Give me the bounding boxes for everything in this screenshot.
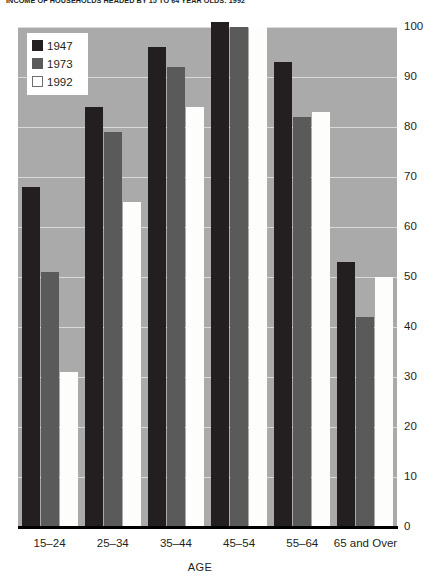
legend-item-1947[interactable]: 1947	[32, 37, 83, 54]
legend-item-1973[interactable]: 1973	[32, 55, 83, 72]
plot-area	[18, 27, 397, 527]
legend-swatch-1992-icon	[32, 76, 43, 87]
x-axis-tick-45–54: 45–54	[208, 537, 271, 550]
bar-1947-15–24[interactable]	[22, 187, 40, 527]
bar-1973-35–44[interactable]	[167, 67, 185, 527]
x-axis-tick-55–64: 55–64	[271, 537, 334, 550]
bars-layer	[18, 27, 397, 527]
bar-1992-45–54[interactable]	[249, 27, 267, 527]
x-axis-tick-65-and-Over: 65 and Over	[334, 537, 397, 550]
y-axis-tick-60: 60	[404, 221, 437, 232]
legend: 1947 1973 1992	[27, 33, 88, 95]
y-axis-tick-0: 0	[404, 521, 437, 532]
y-axis-tick-100: 100	[404, 21, 437, 32]
y-axis-tick-70: 70	[404, 171, 437, 182]
y-axis-tick-90: 90	[404, 71, 437, 82]
legend-label-1947: 1947	[47, 40, 73, 52]
bar-1973-15–24[interactable]	[41, 272, 59, 527]
y-axis-tick-40: 40	[404, 321, 437, 332]
bar-1973-55–64[interactable]	[293, 117, 311, 527]
bar-1992-15–24[interactable]	[60, 372, 78, 527]
y-axis-tick-10: 10	[404, 471, 437, 482]
chart-title: INCOME OF HOUSEHOLDS HEADED BY 15 TO 64 …	[6, 0, 426, 6]
bar-1992-35–44[interactable]	[186, 107, 204, 527]
y-axis-tick-30: 30	[404, 371, 437, 382]
x-axis-tick-35–44: 35–44	[144, 537, 207, 550]
y-axis-tick-80: 80	[404, 121, 437, 132]
legend-item-1992[interactable]: 1992	[32, 73, 83, 90]
bar-1992-25–34[interactable]	[123, 202, 141, 527]
bar-1947-65-and-Over[interactable]	[337, 262, 355, 527]
y-axis-tick-20: 20	[404, 421, 437, 432]
legend-swatch-1947-icon	[32, 40, 43, 51]
x-axis-tick-25–34: 25–34	[81, 537, 144, 550]
chart-root: INCOME OF HOUSEHOLDS HEADED BY 15 TO 64 …	[0, 0, 437, 586]
x-axis-title: AGE	[0, 561, 400, 573]
bar-1947-55–64[interactable]	[274, 62, 292, 527]
bar-1973-25–34[interactable]	[104, 132, 122, 527]
bar-1992-55–64[interactable]	[312, 112, 330, 527]
bar-1973-45–54[interactable]	[230, 27, 248, 527]
bar-1992-65-and-Over[interactable]	[375, 277, 393, 527]
legend-swatch-1973-icon	[32, 58, 43, 69]
x-axis-line	[18, 526, 398, 529]
bar-1947-45–54[interactable]	[211, 22, 229, 527]
x-axis-tick-15–24: 15–24	[18, 537, 81, 550]
bar-1973-65-and-Over[interactable]	[356, 317, 374, 527]
bar-1947-25–34[interactable]	[85, 107, 103, 527]
legend-label-1973: 1973	[47, 58, 73, 70]
legend-label-1992: 1992	[47, 76, 73, 88]
y-axis-tick-50: 50	[404, 271, 437, 282]
bar-1947-35–44[interactable]	[148, 47, 166, 527]
